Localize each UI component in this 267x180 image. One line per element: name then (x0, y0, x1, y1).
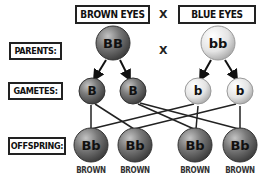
arrow-parent2-gamete3 (201, 60, 211, 78)
arrow-parent2-gamete4 (225, 60, 236, 78)
gamete-4: b (227, 78, 253, 104)
svg-text:B: B (128, 84, 137, 98)
gamete-3: b (185, 78, 211, 104)
fertilization-lines (91, 103, 240, 129)
line-g3-o1 (91, 104, 194, 129)
line-g1-o2 (95, 104, 134, 129)
arrows (95, 60, 236, 78)
svg-text:b: b (194, 84, 203, 98)
svg-text:Bb: Bb (81, 138, 100, 153)
offspring-3: Bb (178, 128, 212, 162)
offspring-2: Bb (118, 128, 152, 162)
parent-bb-dominant: BB (96, 26, 130, 60)
svg-text:BB: BB (103, 36, 123, 51)
arrow-parent1-gamete2 (120, 60, 129, 78)
svg-text:Bb: Bb (230, 138, 249, 153)
parent-bb-recessive: bb (201, 26, 235, 60)
svg-text:b: b (236, 84, 245, 98)
gamete-1: B (79, 78, 105, 104)
line-g3-o3 (196, 106, 198, 129)
blue-eyes-label: BLUE EYES (178, 5, 256, 24)
header-cross-symbol: X (159, 8, 167, 21)
svg-text:Bb: Bb (125, 138, 144, 153)
offspring-4-phenotype: BROWN (218, 166, 262, 175)
brown-eyes-label: BROWN EYES (75, 5, 150, 24)
offspring-1: Bb (74, 128, 108, 162)
offspring-4: Bb (223, 128, 257, 162)
svg-text:B: B (87, 84, 96, 98)
gametes-row-label: GAMETES: (8, 82, 63, 100)
offspring-2-phenotype: BROWN (113, 166, 157, 175)
parents-row-label: PARENTS: (9, 42, 62, 60)
arrow-parent1-gamete1 (95, 60, 106, 78)
offspring-row-label: OFFSPRING: (8, 137, 66, 155)
parents-cross-symbol: X (159, 44, 167, 57)
gamete-2: B (120, 78, 146, 104)
svg-text:Bb: Bb (185, 138, 204, 153)
svg-text:bb: bb (209, 36, 228, 51)
offspring-3-phenotype: BROWN (173, 166, 217, 175)
offspring-1-phenotype: BROWN (69, 166, 113, 175)
